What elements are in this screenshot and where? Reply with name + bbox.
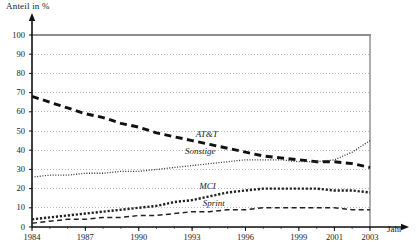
- series-label-sonstige: Sonstige: [185, 146, 216, 156]
- y-tick-label: 0: [3, 222, 25, 232]
- x-tick-label: 1990: [122, 232, 156, 242]
- series-label-mci: MCI: [199, 181, 216, 191]
- series-line-mci: [32, 189, 370, 220]
- y-tick-label: 60: [3, 106, 25, 116]
- x-tick-label: 1996: [228, 232, 262, 242]
- y-tick-label: 100: [3, 30, 25, 40]
- y-tick-label: 50: [3, 126, 25, 136]
- x-tick-label: 2001: [317, 232, 351, 242]
- chart-container: Anteil in % Jahr 0102030405060708090100 …: [0, 0, 416, 242]
- y-tick-label: 90: [3, 49, 25, 59]
- x-tick-label: 2003: [353, 232, 387, 242]
- y-tick-label: 30: [3, 164, 25, 174]
- y-tick-label: 20: [3, 183, 25, 193]
- x-tick-label: 1984: [15, 232, 49, 242]
- series-label-at-t: AT&T: [196, 129, 218, 139]
- y-tick-label: 80: [3, 68, 25, 78]
- x-tick-label: 1999: [282, 232, 316, 242]
- series-label-sprint: Sprint: [203, 198, 225, 208]
- y-tick-label: 10: [3, 202, 25, 212]
- series-line-sprint: [32, 208, 370, 223]
- y-tick-label: 70: [3, 87, 25, 97]
- x-tick-label: 1987: [68, 232, 102, 242]
- x-tick-label: 1993: [175, 232, 209, 242]
- y-tick-label: 40: [3, 145, 25, 155]
